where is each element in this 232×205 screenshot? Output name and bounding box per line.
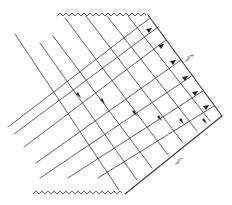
scri-minus-label: 𝒥−: [175, 155, 184, 165]
scri-plus-label: 𝒥+: [185, 52, 194, 62]
scri-minus-edge: [125, 116, 222, 194]
scri-minus-superscript: −: [180, 155, 184, 161]
scri-plus-edge: [148, 15, 222, 116]
arrow-icons-outgoing: [146, 28, 209, 110]
diagram-canvas: [0, 0, 232, 205]
outgoing-null-lines: [8, 18, 214, 178]
scri-plus-superscript: +: [190, 52, 194, 58]
top-singularity-wavy-line: [57, 13, 146, 16]
bottom-singularity-wavy-line: [33, 191, 122, 194]
